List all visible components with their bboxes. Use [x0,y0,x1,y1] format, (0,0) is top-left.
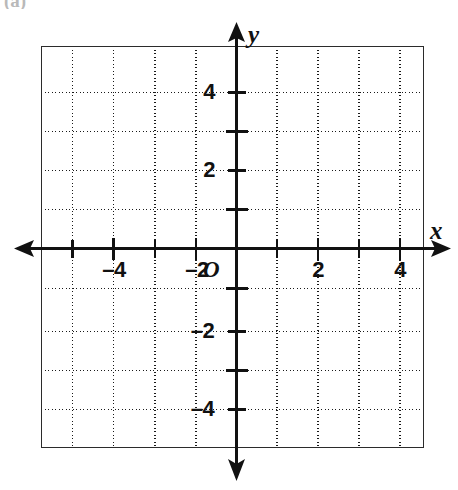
coordinate-grid-figure: (a) [0,0,458,490]
y-tick-label-neg4: –4 [183,398,222,420]
x-tick-label-neg2: –2 [179,259,215,281]
x-tick-label-neg4: –4 [96,259,132,281]
y-axis-label: y [248,22,259,47]
y-tick-label-pos4: 4 [196,81,222,103]
coordinate-plane-svg [0,0,458,490]
x-axis-label: x [430,218,443,243]
y-tick-label-neg2: –2 [183,320,222,342]
x-tick-label-pos4: 4 [387,259,413,281]
y-tick-label-pos2: 2 [196,159,222,181]
plot-area-background [41,46,424,448]
x-tick-label-pos2: 2 [305,259,331,281]
